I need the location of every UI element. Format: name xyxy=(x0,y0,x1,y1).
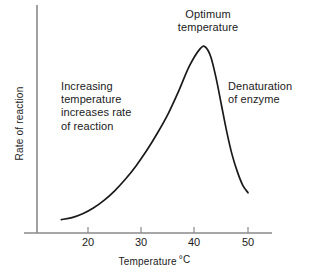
x-tick-label-30: 30 xyxy=(126,236,156,248)
annotation-denaturation: Denaturation of enzyme xyxy=(228,80,292,106)
x-axis-unit: °C xyxy=(177,254,191,265)
reaction-rate-curve xyxy=(61,46,248,219)
x-tick-label-20: 20 xyxy=(73,236,103,248)
annotation-optimum-temperature: Optimum temperature xyxy=(160,8,256,34)
x-axis-title-text: Temperature xyxy=(119,256,177,267)
x-tick-label-50: 50 xyxy=(233,236,263,248)
y-axis-title: Rate of reaction xyxy=(14,69,25,179)
x-axis-title: Temperature°C xyxy=(0,254,309,267)
annotation-increasing-temperature: Increasing temperature increases rate of… xyxy=(61,80,132,133)
x-tick-label-40: 40 xyxy=(179,236,209,248)
enzyme-rate-chart: Increasing temperature increases rate of… xyxy=(0,0,309,277)
